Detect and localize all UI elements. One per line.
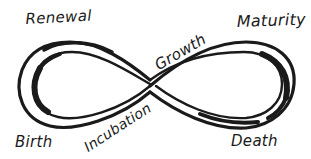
label-birth: Birth [15, 135, 53, 150]
label-death: Death [231, 134, 278, 149]
infinity-lifecycle-diagram: Renewal Maturity Growth Incubation Birth… [0, 0, 311, 159]
label-renewal: Renewal [25, 9, 92, 27]
label-maturity: Maturity [236, 12, 306, 30]
